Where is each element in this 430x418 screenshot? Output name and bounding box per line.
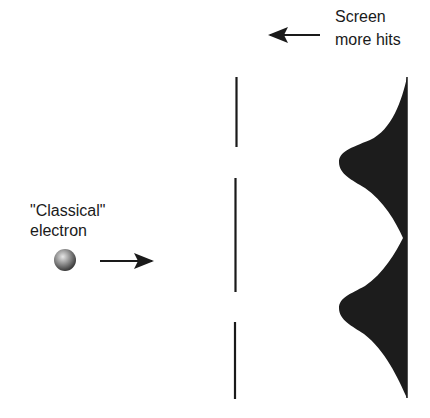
electron-label-line2: electron [30, 222, 87, 239]
slit-barrier [235, 77, 237, 399]
screen-label-line2: more hits [335, 31, 401, 48]
hit-distribution-shape [339, 77, 407, 398]
electron-label-line1: "Classical" [30, 202, 105, 219]
electron-icon [54, 249, 76, 271]
double-slit-diagram: Screen more hits "Classical" electron [0, 0, 430, 418]
screen-label-line1: Screen [335, 8, 386, 25]
